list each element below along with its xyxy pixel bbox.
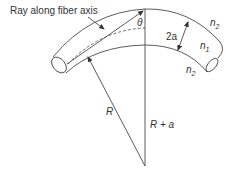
ray-line bbox=[67, 11, 143, 64]
fiber-right-end bbox=[204, 56, 220, 73]
cladding-bottom-sub: 2 bbox=[191, 70, 196, 77]
radius-inner-line bbox=[88, 57, 145, 166]
cladding-bottom-label: n2 bbox=[186, 64, 196, 77]
core-label: n1 bbox=[200, 40, 210, 53]
theta-label: θ bbox=[137, 17, 143, 28]
core-sub: 1 bbox=[206, 46, 210, 53]
cladding-top-sub: 2 bbox=[215, 23, 220, 30]
core-diameter-arrow bbox=[178, 22, 188, 50]
radius-outer-label: R + a bbox=[150, 119, 175, 130]
cladding-top-label: n2 bbox=[210, 17, 220, 30]
core-diameter-label: 2a bbox=[166, 31, 178, 42]
caption-label: Ray along fiber axis bbox=[10, 5, 98, 16]
radius-inner-label: R bbox=[106, 106, 113, 117]
bent-fiber-diagram: Ray along fiber axis θ 2a n2 n1 n2 R R +… bbox=[0, 0, 236, 174]
